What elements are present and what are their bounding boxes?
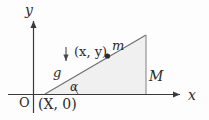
- block-coordinate-label: (x, y): [74, 45, 107, 58]
- y-axis-label: y: [25, 3, 33, 17]
- wedge-mass-label: M: [149, 69, 163, 83]
- wedge-base-left-label: (X, 0): [38, 97, 77, 111]
- inclined-plane-figure: y x O (X, 0) α g (x, y) m M: [0, 0, 209, 120]
- origin-label: O: [19, 96, 30, 109]
- figure-canvas: [0, 0, 209, 120]
- block-mass-label: m: [112, 39, 124, 52]
- x-axis-label: x: [188, 88, 196, 102]
- gravity-label: g: [53, 66, 61, 79]
- incline-angle-label: α: [70, 81, 78, 93]
